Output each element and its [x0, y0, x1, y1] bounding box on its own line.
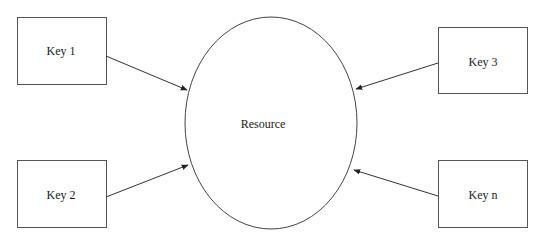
key-1-label: Key 1 [47, 44, 76, 58]
key-n-node: Key n [439, 161, 528, 228]
resource-node: Resource [185, 17, 357, 229]
key-resource-diagram: Resource Key 1 Key 2 Key 3 Key n [0, 0, 541, 241]
key-3-label: Key 3 [469, 55, 498, 69]
arrow-key-2-to-resource [106, 165, 188, 197]
key-n-label: Key n [469, 188, 498, 202]
key-2-node: Key 2 [18, 161, 107, 228]
key-2-label: Key 2 [47, 188, 76, 202]
key-3-node: Key 3 [439, 28, 528, 94]
key-1-node: Key 1 [18, 18, 107, 85]
arrow-key-1-to-resource [106, 56, 187, 90]
arrow-key-n-to-resource [354, 170, 438, 196]
resource-label: Resource [241, 117, 286, 131]
arrow-key-3-to-resource [356, 63, 438, 89]
